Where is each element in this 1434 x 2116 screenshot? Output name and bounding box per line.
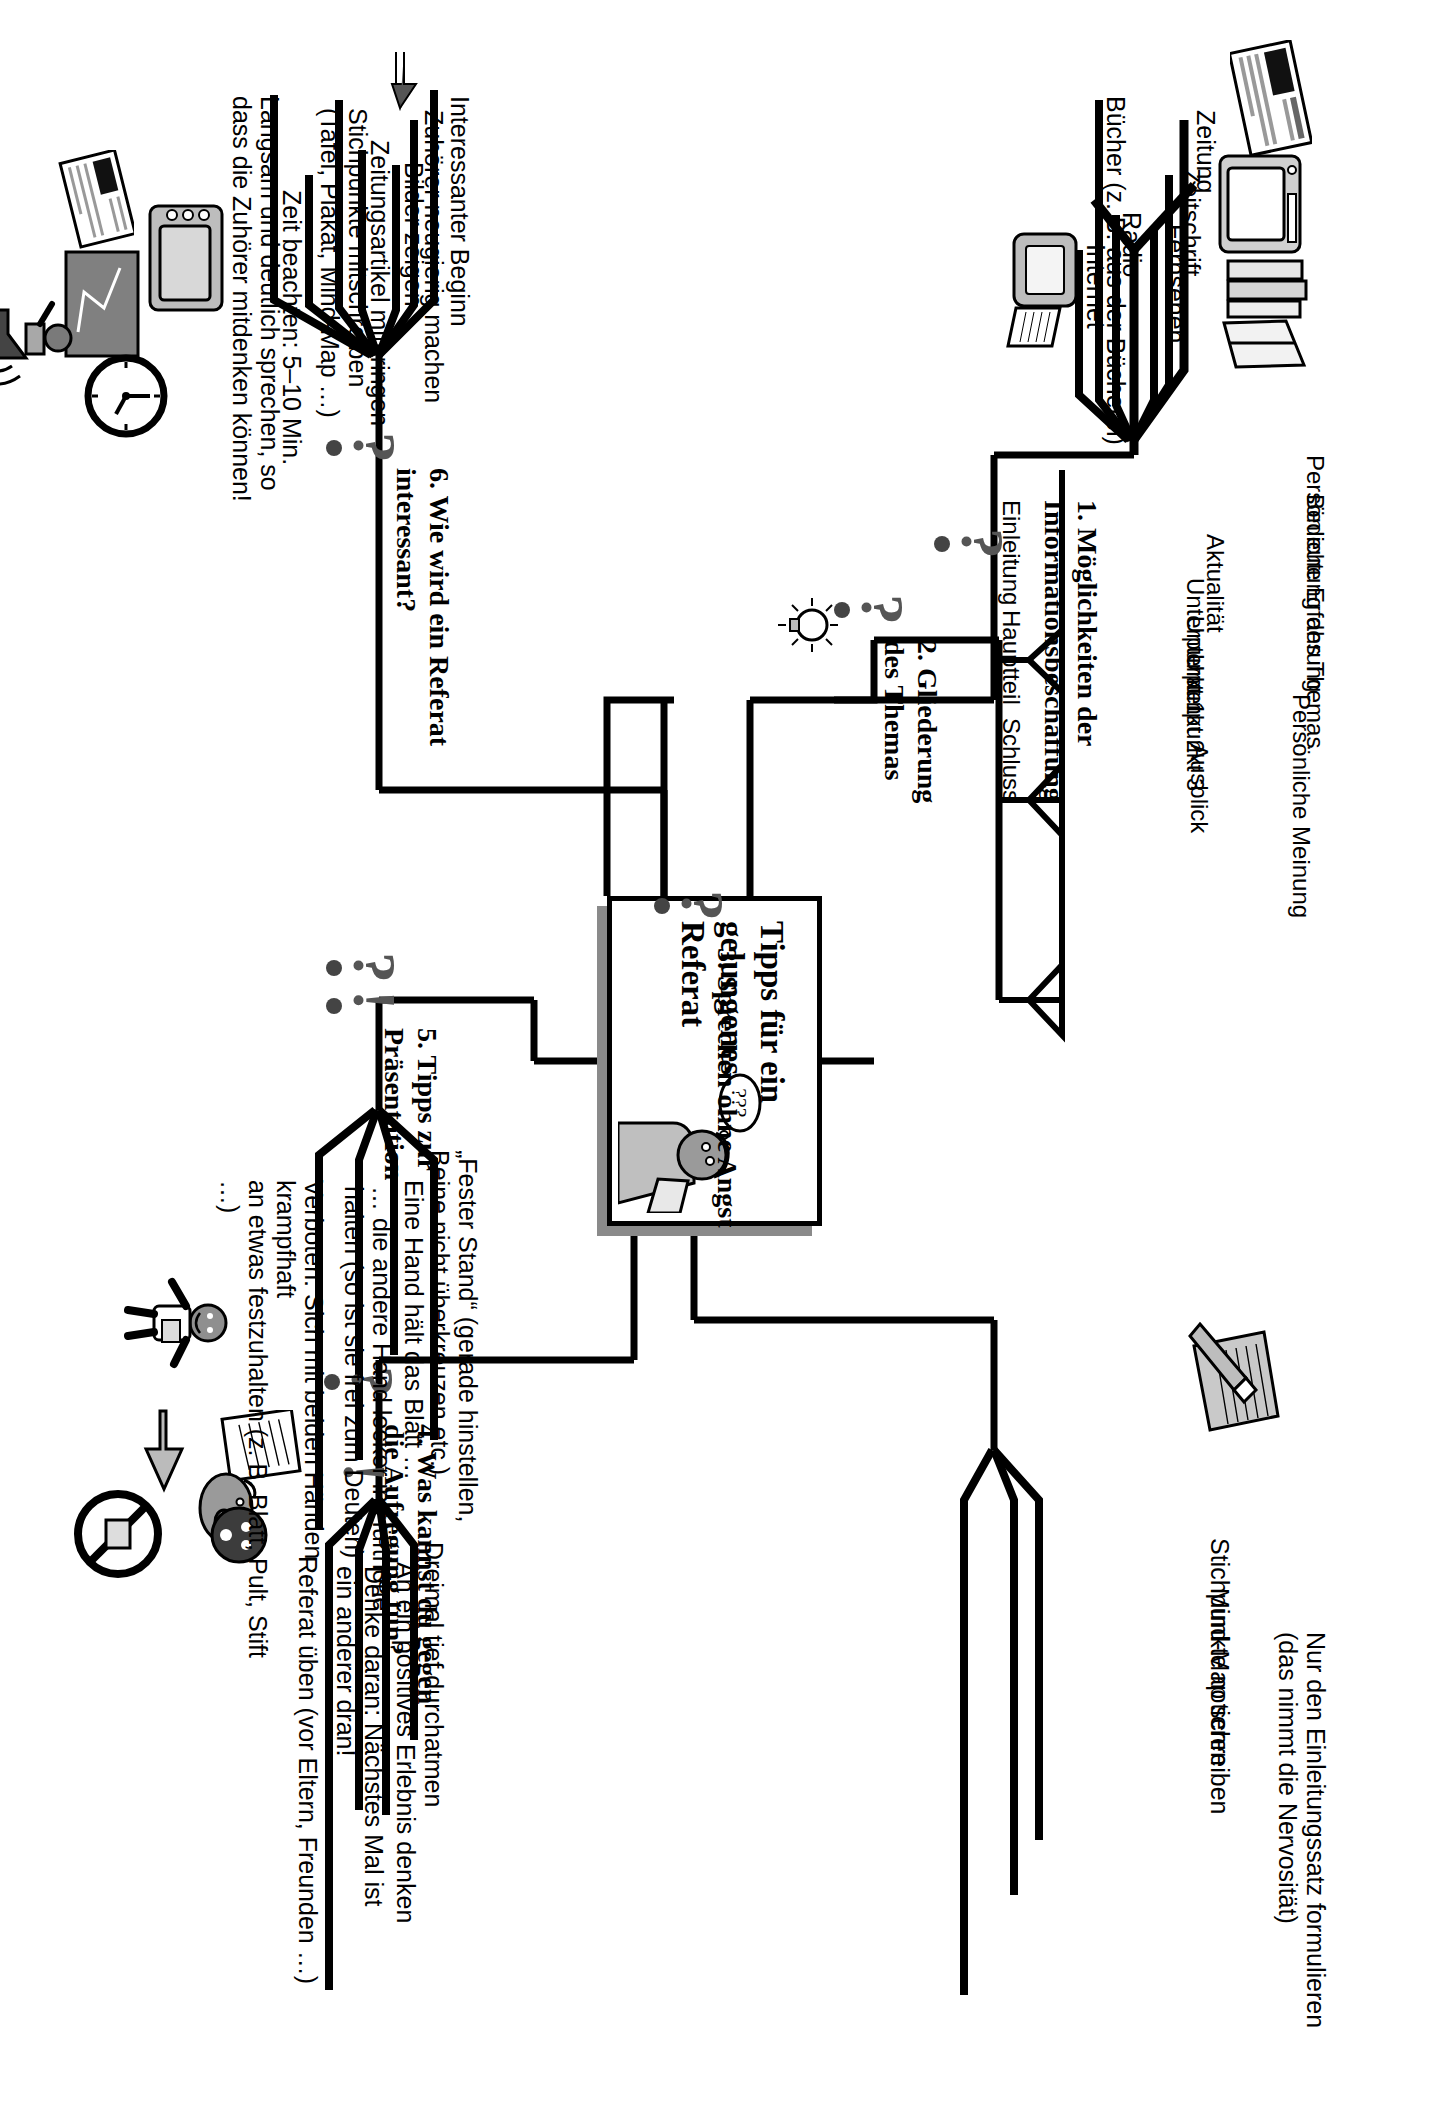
question-mark-icon-2: ? (852, 594, 914, 625)
question-mark-icon-3: ? (672, 890, 734, 921)
node-persoenliche-meinung[interactable]: Persönliche Meinung (1287, 694, 1314, 918)
node-hauptteil[interactable]: Hauptteil (997, 610, 1024, 705)
magazine-icon (1214, 150, 1306, 260)
question-mark-icon-5: ? (344, 952, 406, 983)
note-pencil-icon (1186, 1316, 1286, 1446)
clock-icon (80, 350, 172, 442)
mindmap-canvas: Tipps für ein gelungenes Referat ??? ? 1… (0, 0, 1434, 2116)
node-interessanter-beginn[interactable]: Interessanter Beginn (446, 96, 474, 327)
question-mark-dot-3 (654, 898, 670, 914)
node-langsam-deutlich[interactable]: Langsam und deutlich sprechen, so dass d… (228, 96, 284, 536)
newspaper-icon (1230, 40, 1312, 160)
node-naechstes-mal[interactable]: Denke daran: Nächstes Mal ist ein andere… (332, 1566, 388, 1986)
node-einleitung[interactable]: Einleitung (997, 500, 1024, 605)
node-ausblick[interactable]: Ausblick (1185, 744, 1212, 833)
node-dreimal-durchatmen[interactable]: Dreimal tief durchatmen (420, 1542, 448, 1807)
node-internet[interactable]: Internet (1082, 244, 1110, 329)
standing-boy-icon (124, 1268, 234, 1378)
branch-title-1[interactable]: 1. Möglichkeiten der Informationsbeschaf… (1038, 500, 1104, 860)
node-fernsehen[interactable]: Fernsehen (1162, 224, 1190, 344)
overhead-projector-icon (138, 200, 234, 320)
computer-icon (990, 230, 1082, 350)
node-einleitungssatz[interactable]: Nur den Einleitungssatz formulieren (das… (1274, 1632, 1330, 2052)
books-icon (1204, 255, 1314, 375)
exclamation-mark-icon-5: ! (344, 990, 406, 1011)
megaphone-icon (0, 300, 42, 390)
branch-title-6[interactable]: 6. Wie wird ein Referat interessant? (390, 468, 456, 868)
newspaper-small-icon (58, 150, 134, 250)
node-stichpunkte-mitschreiben[interactable]: Stichpunkte mitschreiben (Tafel, Plakat,… (316, 108, 372, 448)
arrow-up-icon (378, 48, 422, 112)
no-entry-icon (70, 1486, 166, 1582)
node-andere-hand[interactable]: … die andere Hand locker in Hüfthöhe hal… (340, 1186, 396, 1626)
lightbulb-icon (774, 590, 844, 660)
thinking-pupil-icon: ??? (618, 1063, 768, 1213)
question-mark-dot-5b (326, 998, 342, 1014)
branch-title-3[interactable]: 3. Sprechen ohne Angst (711, 948, 744, 1388)
node-bilder-zeigen[interactable]: Bilder zeigen (400, 162, 428, 307)
mindmap-page: Tipps für ein gelungenes Referat ??? ? 1… (0, 0, 1434, 2116)
node-verboten[interactable]: Verboten: Sich mit beiden Händen krampfh… (216, 1180, 328, 1680)
node-mind-map-schreiben[interactable]: Mind-Map schreiben (1206, 1588, 1234, 1815)
question-mark-dot-5a (326, 960, 342, 976)
question-mark-dot-2 (834, 602, 850, 618)
node-positives-erlebnis[interactable]: An ein positives Erlebnis denken (392, 1562, 420, 1923)
branch-title-2[interactable]: 2. Gliederung des Themas (878, 640, 944, 940)
node-schluss[interactable]: Schluss (997, 718, 1024, 802)
node-eine-hand-blatt[interactable]: Eine Hand hält das Blatt … (400, 1180, 428, 1480)
rotated-canvas-wrapper: Tipps für ein gelungenes Referat ??? ? 1… (0, 0, 1434, 2116)
node-fester-stand[interactable]: „Fester Stand“ (gerade hinstellen, Beine… (426, 1150, 482, 1550)
question-mark-dot-1 (934, 536, 950, 552)
